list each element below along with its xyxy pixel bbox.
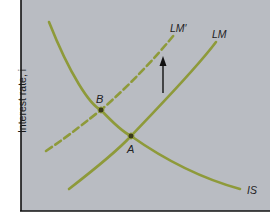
y-axis-label: Interest rate, i <box>16 41 28 161</box>
point-b-marker <box>98 107 104 113</box>
is-label: IS <box>247 184 257 196</box>
plot-area <box>21 0 270 211</box>
lm-prime-label: LM′ <box>170 22 188 34</box>
lm-label: LM <box>212 28 227 40</box>
is-lm-diagram: B A LM′ LM IS <box>0 0 270 220</box>
point-b-label: B <box>96 93 103 105</box>
point-a-marker <box>128 133 134 139</box>
point-a-label: A <box>126 143 134 155</box>
